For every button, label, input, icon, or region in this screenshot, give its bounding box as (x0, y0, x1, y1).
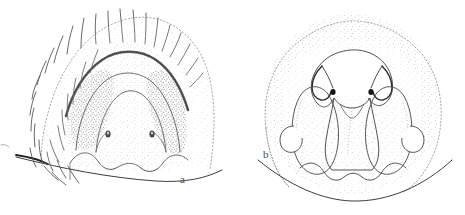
figure-illustration-canvas (0, 0, 465, 215)
panel-b-left-hook-tip (330, 89, 335, 95)
panel-b-right-lateral-lobe (365, 87, 412, 175)
panel-b-right-hook-tip (368, 89, 373, 95)
panel-label-a: a (180, 174, 185, 185)
panel-b-left-lateral-lobe (292, 87, 339, 175)
figure-root: a b (0, 0, 465, 215)
panel-label-b: b (263, 149, 269, 160)
